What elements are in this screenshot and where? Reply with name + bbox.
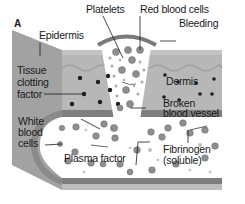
label-broken-2: blood vessel <box>163 108 219 119</box>
label-red-blood-cells: Red blood cells <box>140 4 209 15</box>
label-tissue-clotting-factor-1: Tissue <box>17 65 46 76</box>
label-white-blood-cells-3: cells <box>18 138 38 149</box>
label-plasma-factor: Plasma factor <box>64 153 126 164</box>
label-platelets: Platelets <box>86 4 124 15</box>
diagram-illustration <box>0 0 245 204</box>
label-fibrinogen-2: (soluble) <box>163 155 201 166</box>
label-dermis: Dermis <box>166 76 198 87</box>
panel-letter: A <box>14 18 21 29</box>
label-epidermis: Epidermis <box>39 30 84 41</box>
label-bleeding: Bleeding <box>179 18 218 29</box>
label-tissue-clotting-factor-2: clotting <box>17 77 49 88</box>
label-tissue-clotting-factor-3: factor <box>17 89 42 100</box>
blood-clotting-diagram: A Epidermis Platelets Red blood cells Bl… <box>0 0 245 204</box>
